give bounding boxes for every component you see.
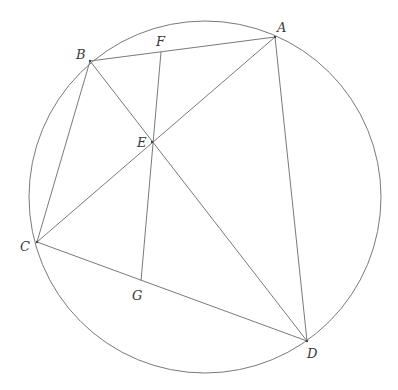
label-d: D bbox=[306, 346, 318, 361]
label-f: F bbox=[155, 34, 166, 49]
cyclic-quadrilateral-diagram: A B C D E F G bbox=[0, 0, 398, 390]
point-c bbox=[36, 241, 38, 243]
label-c: C bbox=[20, 239, 30, 254]
segment-bc bbox=[37, 61, 90, 242]
point-a bbox=[274, 36, 276, 38]
point-e bbox=[151, 141, 153, 143]
circumcircle bbox=[29, 21, 381, 373]
label-a: A bbox=[276, 20, 286, 35]
label-b: B bbox=[75, 47, 86, 62]
segment-da bbox=[275, 37, 307, 341]
segment-fg bbox=[141, 52, 161, 281]
point-d bbox=[306, 340, 308, 342]
diagonal-ac bbox=[37, 37, 275, 242]
segment-cd bbox=[37, 242, 307, 341]
point-b bbox=[89, 60, 91, 62]
label-e: E bbox=[136, 135, 147, 150]
segment-ab bbox=[90, 37, 275, 61]
label-g: G bbox=[132, 288, 142, 303]
